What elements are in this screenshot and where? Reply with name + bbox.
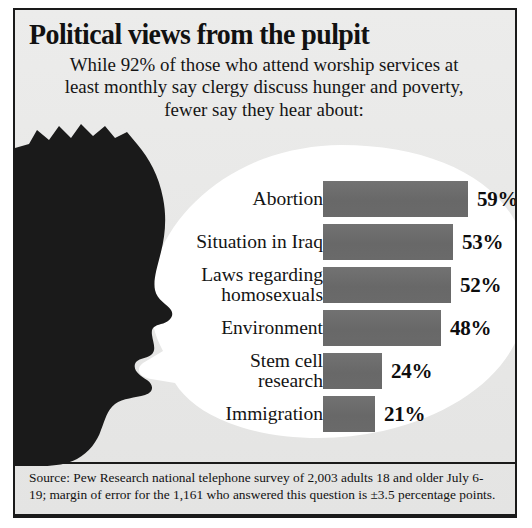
infographic-root: Political views from the pulpit While 92… bbox=[0, 0, 532, 528]
bar-category-label: Environment bbox=[108, 318, 323, 338]
bar-value-label: 48% bbox=[450, 316, 491, 341]
bar-category-label: Stem cell research bbox=[108, 351, 323, 392]
bar-group: 48% bbox=[323, 307, 491, 349]
bar-group: 53% bbox=[323, 221, 503, 263]
chart-row: Environment 48% bbox=[15, 307, 517, 349]
bar-group: 59% bbox=[323, 178, 517, 220]
bottom-rule bbox=[15, 514, 515, 516]
chart-row: Laws regarding homosexuals 52% bbox=[15, 264, 517, 306]
subtitle-line-3: fewer say they hear about: bbox=[36, 99, 492, 122]
bar bbox=[323, 396, 375, 432]
bar-category-label: Laws regarding homosexuals bbox=[108, 265, 323, 306]
bar-value-label: 21% bbox=[384, 402, 425, 427]
bar-group: 24% bbox=[323, 350, 432, 392]
chart-frame: Political views from the pulpit While 92… bbox=[13, 8, 517, 518]
bar-value-label: 53% bbox=[462, 230, 503, 255]
subtitle: While 92% of those who attend worship se… bbox=[36, 54, 496, 122]
footer-divider bbox=[15, 462, 515, 464]
source-note: Source: Pew Research national telephone … bbox=[29, 469, 499, 504]
bar-category-label: Immigration bbox=[108, 404, 323, 424]
bar bbox=[323, 353, 382, 389]
chart-row: Situation in Iraq 53% bbox=[15, 221, 517, 263]
bar-chart: Abortion 59% Situation in Iraq 53% Laws … bbox=[15, 178, 517, 453]
chart-row: Abortion 59% bbox=[15, 178, 517, 220]
bar-group: 21% bbox=[323, 393, 425, 435]
bar bbox=[323, 310, 441, 346]
header: Political views from the pulpit While 92… bbox=[15, 10, 515, 121]
bar-value-label: 52% bbox=[460, 273, 501, 298]
chart-row: Stem cell research 24% bbox=[15, 350, 517, 392]
bar-group: 52% bbox=[323, 264, 501, 306]
bar-value-label: 24% bbox=[391, 359, 432, 384]
subtitle-line-1: While 92% of those who attend worship se… bbox=[36, 54, 492, 77]
subtitle-line-2: least monthly say clergy discuss hunger … bbox=[36, 76, 492, 99]
bar bbox=[323, 224, 453, 260]
bar-value-label: 59% bbox=[477, 187, 517, 212]
bar bbox=[323, 181, 468, 217]
bar bbox=[323, 267, 451, 303]
bar-category-label: Situation in Iraq bbox=[108, 232, 323, 252]
page-title: Political views from the pulpit bbox=[29, 19, 470, 50]
chart-row: Immigration 21% bbox=[15, 393, 517, 435]
bar-category-label: Abortion bbox=[108, 189, 323, 209]
